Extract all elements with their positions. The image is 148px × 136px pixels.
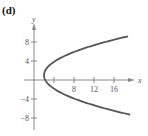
y-tick-label: 8 (25, 38, 29, 47)
x-tick-label: 16 (110, 85, 118, 94)
y-tick-label: −8 (20, 114, 29, 123)
x-axis-label: x (137, 76, 142, 85)
parabola-curve (44, 36, 130, 114)
panel-label: (d) (2, 4, 16, 17)
x-tick-label: 12 (90, 85, 98, 94)
y-axis-arrow-icon (32, 23, 36, 30)
y-tick-label: 4 (25, 57, 29, 66)
y-tick-label: −4 (20, 95, 29, 104)
y-axis-label: y (31, 15, 36, 24)
parabola-chart: (d) y x 8121684−4−8 (0, 0, 148, 136)
x-axis-arrow-icon (128, 78, 135, 82)
x-tick-label: 8 (72, 85, 76, 94)
